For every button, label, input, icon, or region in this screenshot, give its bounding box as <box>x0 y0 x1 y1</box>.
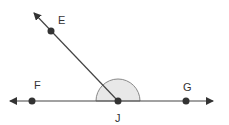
label-j: J <box>115 112 121 124</box>
label-f: F <box>34 79 41 91</box>
point-j <box>115 98 122 105</box>
label-g: G <box>183 81 192 93</box>
point-f <box>29 98 36 105</box>
point-g <box>183 98 190 105</box>
label-e: E <box>58 14 65 26</box>
diagram-canvas: E F J G <box>0 0 229 125</box>
point-e <box>48 28 55 35</box>
ray-je <box>34 13 118 101</box>
geometry-diagram: E F J G <box>0 0 229 125</box>
